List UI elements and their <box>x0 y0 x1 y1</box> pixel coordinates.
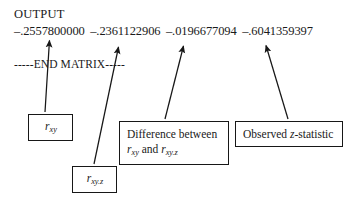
arrow-to-difference <box>165 46 184 119</box>
subscript-xy-z: xy.z <box>91 177 103 186</box>
observed-prefix: Observed <box>243 128 290 140</box>
callout-label-r-xy: rxy <box>45 119 57 135</box>
figure-canvas: OUTPUT –.2557800000 –.2361122906 –.01966… <box>0 0 357 201</box>
subscript-xy: xy <box>50 125 57 134</box>
callout-difference-line1: Difference between <box>127 127 222 142</box>
callout-box-observed-z: Observed z-statistic <box>235 121 343 147</box>
arrow-to-observed-z <box>266 46 288 120</box>
conjunction-and: and <box>139 143 161 155</box>
callout-box-difference: Difference between rxy and rxy.z <box>119 121 229 165</box>
arrow-to-r-xy <box>45 41 50 113</box>
statistic-suffix: -statistic <box>294 128 333 140</box>
arrow-to-r-xy-z <box>94 47 119 164</box>
callout-box-r-xy: rxy <box>28 114 73 141</box>
callout-observed-z-label: Observed z-statistic <box>243 127 333 142</box>
callout-difference-line2: rxy and rxy.z <box>127 142 222 158</box>
arrow-layer <box>0 0 357 201</box>
subscript-xy-z: xy.z <box>166 148 178 157</box>
callout-label-r-xy-z: rxy.z <box>87 171 104 187</box>
subscript-xy: xy <box>131 148 138 157</box>
callout-box-r-xy-z: rxy.z <box>72 166 117 193</box>
